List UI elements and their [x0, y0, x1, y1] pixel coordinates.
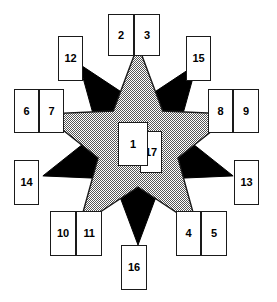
label-box-text: 14	[21, 177, 33, 188]
label-box-6[interactable]: 6	[14, 89, 39, 133]
label-box-text: 9	[243, 106, 249, 117]
label-box-text: 11	[83, 228, 94, 239]
label-box-text: 8	[218, 106, 224, 117]
label-box-4[interactable]: 4	[176, 211, 201, 256]
label-box-3[interactable]: 3	[134, 14, 160, 56]
label-box-text: 10	[57, 228, 69, 239]
label-box-15[interactable]: 15	[186, 36, 211, 81]
label-box-text: 13	[241, 177, 253, 188]
label-box-9[interactable]: 9	[233, 89, 259, 133]
label-box-10[interactable]: 10	[50, 211, 76, 256]
label-box-13[interactable]: 13	[234, 160, 259, 205]
label-box-14[interactable]: 14	[14, 160, 39, 205]
label-box-1[interactable]: 1	[118, 122, 148, 166]
label-box-text: 5	[211, 228, 217, 239]
label-box-text: 6	[24, 106, 30, 117]
label-box-text: 12	[65, 53, 77, 64]
label-box-11[interactable]: 11	[76, 211, 102, 256]
label-box-12[interactable]: 12	[58, 36, 83, 81]
label-box-text: 7	[49, 106, 55, 117]
label-box-5[interactable]: 5	[201, 211, 227, 256]
label-box-text: 3	[144, 30, 150, 41]
label-box-text: 15	[193, 53, 205, 64]
label-box-text: 4	[186, 228, 192, 239]
label-box-text: 16	[128, 262, 140, 273]
label-box-16[interactable]: 16	[121, 245, 147, 290]
label-box-text: 2	[118, 30, 124, 41]
diagram-canvas: 1172312156789141310114516	[0, 0, 277, 302]
label-box-8[interactable]: 8	[208, 89, 233, 133]
label-box-text: 1	[130, 139, 136, 150]
label-box-2[interactable]: 2	[108, 14, 134, 56]
label-box-7[interactable]: 7	[39, 89, 64, 133]
